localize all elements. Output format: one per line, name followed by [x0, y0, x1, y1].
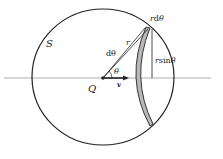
arrow-head-icon — [123, 76, 129, 81]
angle-arc — [109, 71, 112, 78]
label-rsintheta: rsinθ — [155, 56, 176, 65]
label-v: v — [117, 80, 122, 89]
label-dtheta: dθ — [106, 49, 116, 58]
diagram-canvas: S Q v θ r dθ rdθ rsinθ — [0, 0, 223, 159]
label-theta: θ — [114, 67, 119, 76]
ring-band — [136, 27, 153, 126]
label-rdtheta: rdθ — [150, 14, 164, 23]
point-q — [101, 76, 105, 80]
label-s: S — [46, 38, 53, 49]
label-q: Q — [88, 83, 96, 94]
